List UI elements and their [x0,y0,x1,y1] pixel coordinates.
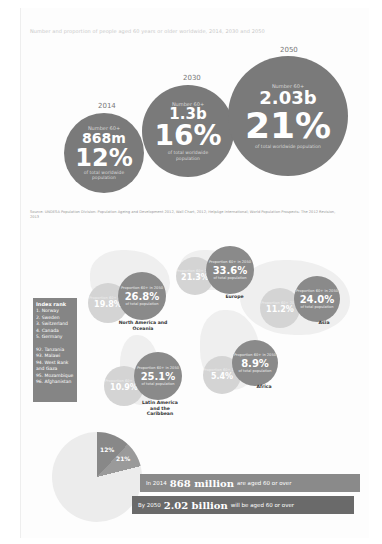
bubble-sub: of total worldwide population [76,170,132,181]
bubble-sub: of total worldwide population [156,150,220,161]
bubble-sub: of total population [213,276,246,280]
year-label-2030: 2030 [183,74,201,82]
index-heading: Index rank [36,301,74,308]
region-label-north-america: North America and Oceania [118,320,168,331]
pie-label-12: 12% [100,446,114,453]
bubble-africa-2050: Proportion 60+ in 2050 8.9% of total pop… [232,340,278,386]
stat-bar-2050: By 2050 2.02 billion will be aged 60 or … [132,496,354,514]
bubble-value: 10.9% [110,384,138,393]
index-rank-box: Index rank 1. Norway 2. Sweden 3. Switze… [33,298,77,402]
bubble-2014: Number 60+ 868m 12% of total worldwide p… [64,113,144,193]
index-item: 96. Afghanistan [36,379,74,386]
bar-prefix: By 2050 [138,502,161,508]
bubble-europe-2050: Proportion 60+ in 2050 33.6% of total po… [206,246,254,294]
bubble-value: 24.0% [300,294,335,305]
bubble-value: 8.9% [241,358,269,369]
source-note: Source: UNDESA Population Division: Popu… [30,210,340,220]
bubble-percent: 16% [154,122,221,150]
region-label-africa: Africa [254,384,274,390]
bubble-value: 5.4% [211,373,233,382]
bubble-latam-2050: Proportion 60+ in 2050 25.1% of total po… [134,352,182,400]
bubble-sub: of total population [125,302,158,306]
region-label-latin-america: Latin America and the Caribbean [138,400,182,417]
stat-bar-2014: In 2014 868 million are aged 60 or over [140,474,360,492]
infographic-title: Number and proportion of people aged 60 … [30,28,320,34]
index-item: 94. West Bank and Gaza [36,360,74,373]
bubble-sub: of total population [141,382,174,386]
bubble-2030: Number 60+ 1.3b 16% of total worldwide p… [142,85,234,177]
bar-highlight: 2.02 billion [164,500,228,511]
bubble-percent: 12% [75,146,132,170]
pie-label-21: 21% [116,455,130,462]
year-label-2014: 2014 [98,102,116,110]
pie-wedge [52,432,142,522]
bubble-sub: of total worldwide population [246,144,330,150]
bubble-value: 26.8% [125,291,160,302]
bubble-2050: Number 60+ 2.03b 21% of total worldwide … [228,56,348,176]
bar-suffix: will be aged 60 or over [231,502,294,508]
region-label-europe: Europe [222,294,247,300]
year-label-2050: 2050 [280,46,298,54]
bar-prefix: In 2014 [146,480,167,486]
bar-suffix: are aged 60 or over [237,480,292,486]
bubble-value: 19.8% [94,301,122,310]
bubble-asia-2050: Proportion 60+ in 2050 24.0% of total po… [294,276,340,322]
region-label-asia: Asia [314,320,334,326]
bubble-value: 33.6% [213,265,248,276]
bubble-percent: 21% [245,108,331,144]
bubble-value: 11.2% [266,306,294,315]
bubble-sub: of total population [300,305,333,309]
bubble-na-2050: Proportion 60+ in 2050 26.8% of total po… [118,272,166,320]
bubble-value: 25.1% [141,371,176,382]
bubble-value: 21.3% [181,274,209,283]
bar-highlight: 868 million [170,478,234,489]
bubble-sub: of total population [238,369,271,373]
